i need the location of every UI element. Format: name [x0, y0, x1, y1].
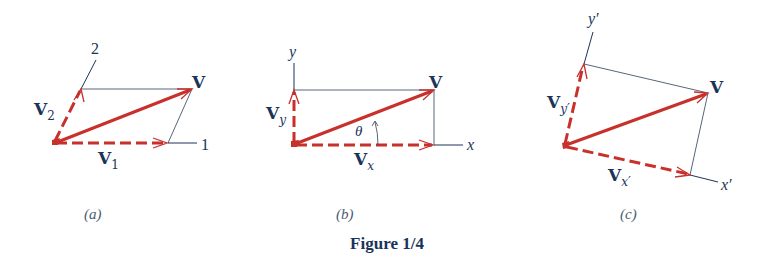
axis-x-prime [690, 175, 718, 182]
panel-a: 2 1 V V2 V1 (a) [33, 40, 209, 223]
angle-theta-label: θ [355, 123, 363, 139]
figure-canvas: 2 1 V V2 V1 (a) y x V θ Vy Vx (b) [0, 0, 774, 259]
vector-v [295, 91, 432, 144]
panel-c: y′ x′ V Vy′ Vx′ (c) [546, 10, 732, 223]
panel-c-caption: (c) [620, 206, 637, 223]
axis-y-prime-label: y′ [586, 10, 599, 28]
axis-y-prime [584, 32, 593, 64]
panel-a-caption: (a) [84, 206, 102, 223]
vector-v [566, 94, 706, 145]
rectangle-top-edge [584, 64, 708, 93]
axis-x-prime-label: x′ [720, 176, 732, 193]
axis-2-label: 2 [91, 40, 99, 57]
vector-vx-prime-label: Vx′ [607, 165, 631, 189]
axis-2 [81, 60, 96, 89]
rectangle-right-edge [690, 93, 708, 175]
vector-vy-prime-label: Vy′ [546, 92, 570, 116]
axis-1-label: 1 [201, 136, 209, 153]
vector-v1-label: V1 [97, 148, 119, 172]
origin-marker [562, 141, 569, 149]
figure-caption: Figure 1/4 [350, 234, 424, 253]
vector-vy-label: Vy [265, 103, 286, 127]
vector-v-label: V [191, 72, 206, 92]
axis-x-label: x [466, 136, 474, 153]
vector-vx-prime [567, 147, 688, 174]
vector-v-label: V [709, 77, 724, 97]
vector-v-label: V [428, 72, 443, 92]
vector-vx-label: Vx [353, 149, 374, 173]
panel-b: y x V θ Vy Vx (b) [265, 43, 474, 223]
vector-v2-label: V2 [33, 99, 55, 123]
panel-b-caption: (b) [336, 206, 354, 223]
axis-y-label: y [287, 43, 297, 61]
